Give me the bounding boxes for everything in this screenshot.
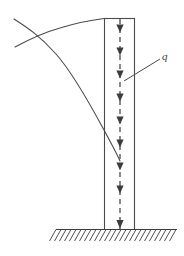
load-arrowhead (116, 71, 123, 79)
ground-hatching (50, 230, 177, 242)
load-arrowhead (116, 48, 123, 56)
load-arrowhead (116, 140, 123, 148)
load-symbol-label: q (162, 51, 168, 62)
reference-arc-curve (15, 19, 104, 48)
load-arrowhead (116, 94, 123, 102)
load-leader-line (124, 59, 160, 81)
load-arrowhead (116, 220, 123, 229)
distributed-load-group (116, 19, 123, 229)
column-load-diagram (0, 0, 184, 256)
load-arrowhead (116, 186, 123, 194)
load-arrowheads (116, 25, 123, 229)
ground-support (50, 230, 178, 242)
load-arrowhead (116, 25, 123, 33)
figure-root: q (0, 0, 184, 256)
load-arrowhead (116, 117, 123, 125)
load-arrowhead (116, 163, 123, 171)
